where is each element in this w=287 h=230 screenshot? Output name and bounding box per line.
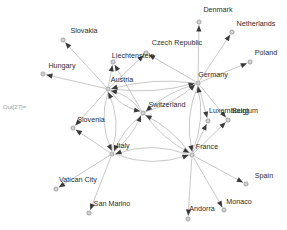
- graph-node[interactable]: [87, 211, 91, 215]
- graph-node[interactable]: [206, 119, 210, 123]
- graph-node-label: Slovenia: [77, 115, 105, 124]
- graph-edge-arrowhead: [182, 155, 189, 160]
- graph-edge-arrowhead: [196, 25, 201, 31]
- graph-edge: [108, 92, 116, 151]
- graph-node-label: Vatican City: [59, 175, 97, 184]
- graph-edge-arrowhead: [225, 35, 231, 42]
- graph-node-label: Poland: [255, 48, 277, 57]
- graph-node-label: Italy: [116, 141, 130, 150]
- graph-node-label: France: [196, 142, 218, 151]
- graph-node[interactable]: [244, 182, 248, 186]
- graph-edge: [145, 115, 189, 153]
- graph-node[interactable]: [230, 30, 234, 34]
- graph-node-label: Monaco: [226, 197, 252, 206]
- notebook-output-cell: Out[27]= SlovakiaHungaryLiechtensteinCze…: [0, 0, 287, 230]
- graph-edge: [193, 158, 222, 208]
- graph-node[interactable]: [248, 60, 252, 64]
- graph-edge: [111, 83, 195, 91]
- graph-node[interactable]: [222, 208, 226, 212]
- graph-node-label: Switzerland: [148, 100, 185, 109]
- graph-node[interactable]: [71, 126, 75, 130]
- graph-node-label: Germany: [198, 70, 228, 79]
- graph-node-label: Austria: [111, 75, 133, 84]
- graph-node-label: Hungary: [48, 61, 76, 70]
- graph-node[interactable]: [54, 187, 58, 191]
- graph-edge-arrowhead: [46, 74, 53, 79]
- graph-node[interactable]: [61, 38, 65, 42]
- graph-edge-arrowhead: [240, 63, 247, 68]
- label-layer: SlovakiaHungaryLiechtensteinCzech Republ…: [48, 5, 277, 213]
- graph-edge-arrowhead: [111, 89, 118, 94]
- graph-node-label: Belgium: [232, 106, 258, 115]
- graph-edge: [46, 75, 105, 89]
- graph-edge-arrowhead: [217, 200, 222, 207]
- graph-node[interactable]: [196, 81, 200, 85]
- graph-edge-arrowhead: [76, 130, 83, 136]
- graph-node[interactable]: [197, 20, 201, 24]
- graph-edge: [149, 55, 196, 82]
- graph-edge: [195, 156, 244, 182]
- graph-node-label: San Marino: [94, 199, 131, 208]
- graph-node-label: Czech Republic: [152, 38, 203, 47]
- graph-node-label: Liechtenstein: [112, 51, 154, 60]
- graph-node[interactable]: [111, 60, 115, 64]
- graph-node-label: Netherlands: [237, 19, 276, 28]
- graph-node[interactable]: [41, 72, 45, 76]
- graph-edge-arrowhead: [109, 65, 114, 72]
- graph-edge-arrowhead: [203, 111, 208, 118]
- graph-node[interactable]: [110, 152, 114, 156]
- graph-node-label: Spain: [255, 171, 273, 180]
- graph-edge-arrowhead: [236, 177, 243, 182]
- graph-node-label: Andorra: [189, 204, 215, 213]
- graph-edge: [115, 154, 189, 161]
- graph-node[interactable]: [226, 118, 230, 122]
- country-adjacency-graph: SlovakiaHungaryLiechtensteinCzech Republ…: [0, 0, 287, 230]
- graph-edge-arrowhead: [134, 107, 141, 112]
- graph-node-label: Slovakia: [70, 26, 97, 35]
- graph-node[interactable]: [141, 111, 145, 115]
- graph-edge: [104, 92, 112, 151]
- graph-node[interactable]: [190, 153, 194, 157]
- graph-edge-arrowhead: [111, 85, 118, 90]
- graph-node[interactable]: [106, 87, 110, 91]
- graph-node-label: Denmark: [203, 5, 233, 14]
- graph-edge-arrowhead: [115, 149, 122, 154]
- graph-edge-arrowhead: [115, 65, 120, 72]
- graph-node[interactable]: [186, 217, 190, 221]
- graph-edge: [115, 65, 142, 111]
